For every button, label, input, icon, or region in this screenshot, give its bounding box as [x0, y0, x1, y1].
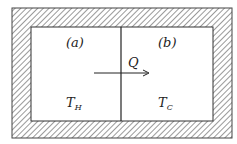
heat-flow-label: Q — [128, 56, 139, 69]
temperature-cold-label: TC — [158, 96, 173, 112]
diagram-canvas — [0, 0, 237, 144]
temp-hot-subscript: H — [75, 103, 82, 112]
temperature-hot-label: TH — [66, 96, 82, 112]
region-a-label: (a) — [66, 36, 84, 49]
temp-cold-subscript: C — [167, 103, 173, 112]
inner-chamber — [31, 27, 213, 121]
temp-hot-symbol: T — [66, 95, 75, 110]
temp-cold-symbol: T — [158, 95, 167, 110]
region-b-label: (b) — [158, 36, 176, 49]
